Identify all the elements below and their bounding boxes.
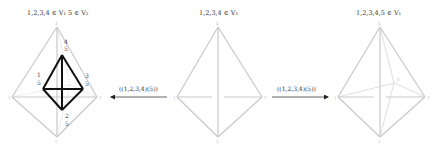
left-inner-label-top-b: 5: [64, 45, 68, 52]
left-vertex-label-bottom: 2: [55, 139, 58, 144]
left-inner-label-right-b: 5: [85, 80, 89, 87]
arrow-to-left: ((1,2,3,4)(5)): [111, 85, 167, 97]
left-panel: 1,2,3,4 ∈ V₁ 5 ∈ V₂ 4 1 3 2 4: [8, 9, 102, 144]
right-panel: 1,2,3,4,5 ∈ V₁ 4 1 3 2 5: [334, 9, 430, 144]
middle-panel: 1,2,3,4 ∈ V₁ 4 1 3 2: [173, 9, 267, 144]
middle-vertex-label-bottom: 2: [216, 139, 219, 144]
arrow-to-right: ((1,2,3,4)(5)): [272, 85, 328, 97]
middle-vertex-label-top: 4: [216, 21, 219, 26]
left-highlight-tetrahedron: [43, 55, 83, 110]
right-vertex-label-left: 1: [334, 95, 337, 100]
arrow-to-left-label: ((1,2,3,4)(5)): [119, 85, 158, 92]
middle-vertex-label-right: 3: [264, 95, 267, 100]
arrow-to-right-label: ((1,2,3,4)(5)): [277, 85, 316, 92]
left-panel-title: 1,2,3,4 ∈ V₁ 5 ∈ V₂: [27, 9, 89, 17]
right-vertex-label-right: 3: [427, 95, 430, 100]
diagram-canvas: 1,2,3,4 ∈ V₁ 5 ∈ V₂ 4 1 3 2 4: [0, 0, 437, 150]
left-inner-label-left-b: 5: [37, 79, 41, 86]
middle-vertex-label-left: 1: [173, 95, 176, 100]
middle-panel-title: 1,2,3,4 ∈ V₁: [199, 9, 238, 17]
left-inner-label-bottom-b: 5: [65, 120, 69, 127]
right-panel-title: 1,2,3,4,5 ∈ V₁: [356, 9, 402, 17]
right-vertex-label-top: 4: [378, 21, 381, 26]
right-vertex-label-interior: 5: [397, 77, 400, 82]
left-vertex-label-right: 3: [99, 95, 102, 100]
left-vertex-label-top: 4: [55, 21, 58, 26]
left-inner-label-left-a: 1: [37, 71, 41, 78]
right-vertex-label-bottom: 2: [378, 139, 381, 144]
left-inner-label-right-a: 3: [85, 72, 89, 79]
middle-tetrahedron: [177, 27, 262, 137]
right-tetrahedron: [338, 27, 425, 137]
left-inner-label-top-a: 4: [64, 38, 68, 45]
left-inner-label-bottom-a: 2: [65, 112, 69, 119]
left-vertex-label-left: 1: [8, 95, 11, 100]
